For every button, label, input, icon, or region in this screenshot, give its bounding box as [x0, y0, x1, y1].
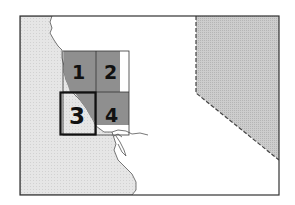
quadrant-4-label[interactable]: 4 — [105, 104, 118, 126]
quadrant-2-label[interactable]: 2 — [104, 61, 117, 83]
quadrant-1-label[interactable]: 1 — [72, 61, 85, 83]
quadrant-grid: 1 2 3 4 — [61, 51, 130, 135]
locator-map: 1 2 3 4 — [0, 0, 295, 205]
quadrant-3-label[interactable]: 3 — [69, 103, 85, 129]
